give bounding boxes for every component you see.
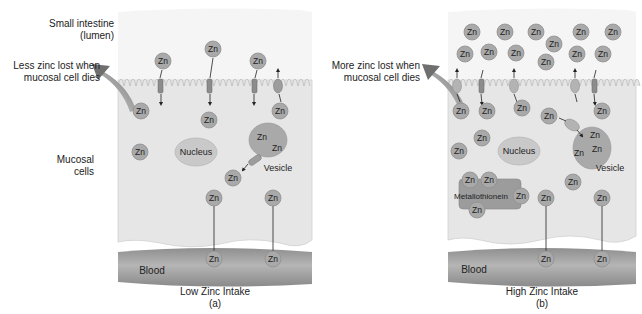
svg-text:Zn: Zn [541,57,551,67]
exporter-icon [571,79,580,93]
svg-text:Zn: Zn [253,56,263,66]
exporter-icon [274,79,283,93]
svg-text:Zn: Zn [467,27,477,37]
svg-text:Zn: Zn [511,48,521,58]
svg-text:Zn: Zn [209,193,219,203]
svg-text:Zn: Zn [482,106,492,116]
nucleus-label-a: Nucleus [180,147,213,157]
mucosal-label-line2: cells [40,166,94,178]
svg-text:Zn: Zn [500,27,510,37]
metallothionein-label: Metallothionein [454,192,508,201]
loss-note-a-line2: mucosal cell dies [0,72,100,84]
transporter-icon [252,79,257,93]
mucosal-cell-b [448,80,636,244]
svg-text:Zn: Zn [484,175,494,185]
svg-text:Zn: Zn [135,147,145,157]
svg-text:Zn: Zn [517,103,527,113]
svg-text:Zn: Zn [454,146,464,156]
lumen-label-line1: Small intestine [20,18,114,30]
transporter-icon [158,79,163,93]
svg-text:Zn: Zn [275,106,285,116]
svg-text:Zn: Zn [516,191,526,201]
caption-a: Low Zinc Intake (a) [165,286,265,310]
svg-text:Zn: Zn [576,27,586,37]
svg-text:Zn: Zn [272,143,282,153]
zinc-absorption-diagram: Zn Zn Zn Zn Zn Zn Zn Zn Zn Zn Zn Zn Zn Z… [0,0,642,314]
svg-text:Zn: Zn [608,27,618,37]
mucosal-cells-label: Mucosal cells [40,154,94,178]
svg-text:Zn: Zn [477,133,487,143]
transporter-icon [592,79,597,93]
svg-text:Zn: Zn [484,47,494,57]
svg-text:Zn: Zn [598,49,608,59]
blood-label-a: Blood [139,265,165,276]
loss-note-b-line2: mucosal cell dies [320,72,420,84]
svg-text:Zn: Zn [549,39,559,49]
svg-text:Zn: Zn [465,175,475,185]
svg-text:Zn: Zn [456,106,466,116]
svg-text:Zn: Zn [209,254,219,264]
svg-text:Zn: Zn [531,27,541,37]
lumen-label-line2: (lumen) [20,30,114,42]
caption-b-letter: (b) [492,298,592,310]
lumen-label: Small intestine (lumen) [20,18,114,42]
svg-text:Zn: Zn [544,111,554,121]
svg-text:Zn: Zn [136,106,146,116]
svg-text:Zn: Zn [257,132,267,142]
svg-text:Zn: Zn [590,130,600,140]
svg-text:Zn: Zn [268,193,278,203]
panel-high-zinc: Zn Zn Zn Zn Zn Zn Zn Zn Zn Zn Zn Zn Zn Z… [422,8,640,286]
caption-b-title: High Zinc Intake [492,286,592,298]
svg-text:Zn: Zn [228,173,238,183]
blood-label-b: Blood [461,264,487,275]
exporter-icon [453,79,462,93]
nucleus-label-b: Nucleus [503,146,536,156]
caption-a-letter: (a) [165,298,265,310]
loss-note-a-line1: Less zinc lost when [0,60,100,72]
svg-text:Zn: Zn [541,193,551,203]
svg-text:Zn: Zn [597,106,607,116]
svg-text:Zn: Zn [158,56,168,66]
transporter-icon [207,79,212,93]
svg-text:Zn: Zn [541,254,551,264]
svg-text:Zn: Zn [204,115,214,125]
svg-text:Zn: Zn [572,49,582,59]
transporter-icon [479,79,484,93]
svg-text:Zn: Zn [568,177,578,187]
loss-note-b-line1: More zinc lost when [320,60,420,72]
svg-text:Zn: Zn [574,148,584,158]
vesicle-label-a: Vesicle [264,163,293,173]
loss-note-a: Less zinc lost when mucosal cell dies [0,60,100,84]
svg-text:Zn: Zn [268,254,278,264]
exporter-icon [510,79,519,93]
vesicle-label-b: Vesicle [596,163,625,173]
svg-text:Zn: Zn [597,193,607,203]
caption-a-title: Low Zinc Intake [165,286,265,298]
svg-text:Zn: Zn [460,49,470,59]
svg-text:Zn: Zn [597,254,607,264]
loss-note-b: More zinc lost when mucosal cell dies [320,60,420,84]
svg-text:Zn: Zn [592,144,602,154]
caption-b: High Zinc Intake (b) [492,286,592,310]
svg-text:Zn: Zn [472,205,482,215]
mucosal-label-line1: Mucosal [40,154,94,166]
svg-text:Zn: Zn [208,44,218,54]
panel-low-zinc: Zn Zn Zn Zn Zn Zn Zn Zn Zn Zn Zn Zn Zn Z… [92,8,312,286]
